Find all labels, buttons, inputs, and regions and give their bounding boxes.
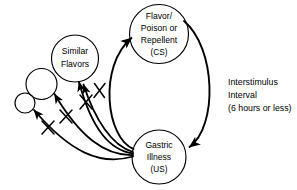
similar-flavors-line-2: Flavors — [61, 59, 89, 69]
similar-flavors-node[interactable]: Similar Flavors — [52, 35, 99, 82]
gastric-illness-line-1: Gastric — [145, 140, 173, 150]
flavor-poison-repellent-node[interactable]: Flavor/ Poison or Repellent (CS) — [130, 5, 189, 64]
generalized-flavor-node-small[interactable] — [15, 93, 35, 113]
gastric-illness-node[interactable]: Gastric Illness (US) — [132, 130, 186, 184]
flavor-poison-repellent-line-1: Flavor/ — [146, 11, 173, 21]
inhibition-x-icon — [42, 121, 54, 134]
gastric-illness-line-3: (US) — [151, 165, 168, 174]
gastric-illness-line-2: Illness — [147, 152, 171, 162]
flavor-poison-repellent-line-4: (CS) — [151, 48, 168, 57]
similar-flavors-line-1: Similar — [62, 46, 88, 56]
inhibition-x-icon — [94, 84, 105, 98]
interstimulus-interval-label: Interstimulus Interval (6 hours or less) — [228, 77, 292, 113]
taste-aversion-diagram: Flavor/ Poison or Repellent (CS) Gastric… — [0, 0, 297, 190]
interstimulus-interval-line-2: Interval — [228, 90, 257, 100]
flavor-poison-repellent-line-3: Repellent — [141, 35, 178, 45]
interstimulus-interval-line-3: (6 hours or less) — [228, 103, 292, 113]
flavor-poison-repellent-line-2: Poison or — [141, 23, 177, 33]
diagram-canvas: Flavor/ Poison or Repellent (CS) Gastric… — [0, 0, 297, 190]
interstimulus-interval-line-1: Interstimulus — [228, 77, 278, 87]
edge-us-to-cs — [109, 38, 133, 149]
